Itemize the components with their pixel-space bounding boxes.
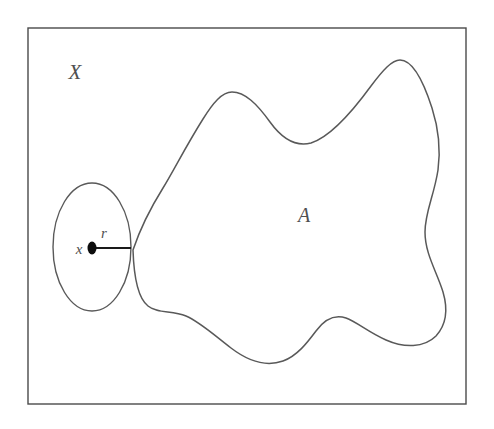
- figure-container: X A x r: [0, 0, 494, 429]
- center-point-dot: [88, 242, 97, 255]
- label-point-x: x: [75, 241, 83, 257]
- label-subset-a: A: [296, 204, 311, 226]
- label-radius-r: r: [101, 225, 107, 241]
- topology-diagram-svg: X A x r: [0, 0, 494, 429]
- label-ambient-space: X: [68, 60, 83, 84]
- ambient-space-rectangle: [28, 28, 466, 404]
- subset-a-blob: [133, 60, 446, 363]
